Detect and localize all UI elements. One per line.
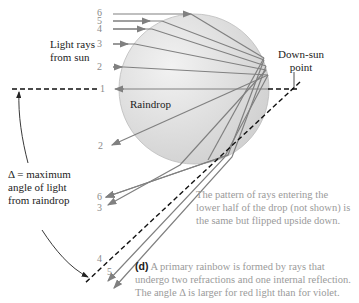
ray-num-2-in: 2 <box>97 61 102 72</box>
note-line2: lower half of the drop (not shown) is <box>196 201 350 214</box>
delta-label: Δ = maximum angle of light from raindrop <box>8 168 71 207</box>
caption-text1: A primary rainbow is formed by rays that <box>148 261 324 272</box>
delta-arc-upper <box>19 92 28 163</box>
figure-caption: (d) A primary rainbow is formed by rays … <box>135 260 351 299</box>
delta-line3: from raindrop <box>8 194 71 207</box>
light-rays-line2: from sun <box>50 51 95 64</box>
delta-arc-lower <box>42 230 88 277</box>
ray-num-3-in: 3 <box>97 38 102 49</box>
ray-num-5-out: 5 <box>107 266 112 277</box>
ray-num-3-out: 3 <box>97 202 102 213</box>
down-sun-line2: point <box>271 61 331 74</box>
caption-tag: (d) <box>135 260 148 272</box>
ray-num-4-out: 4 <box>97 253 102 264</box>
ray-num-6-out: 6 <box>97 191 102 202</box>
ray-num-1-in: 1 <box>100 83 105 94</box>
raindrop-label: Raindrop <box>130 98 171 111</box>
ray-num-4-in: 4 <box>97 23 102 34</box>
down-sun-label: Down-sun point <box>271 48 331 74</box>
delta-line2: angle of light <box>8 181 71 194</box>
note-line3: the same but flipped upside down. <box>196 214 350 227</box>
caption-line3: The angle Δ is larger for red light than… <box>135 286 351 299</box>
light-rays-line1: Light rays <box>50 38 95 51</box>
caption-line2: undergo two refractions and one internal… <box>135 273 351 286</box>
caption-line1: (d) A primary rainbow is formed by rays … <box>135 260 351 273</box>
delta-line1: Δ = maximum <box>8 168 71 181</box>
ray-num-2-out: 2 <box>98 140 103 151</box>
down-sun-line1: Down-sun <box>271 48 331 61</box>
note-line1: The pattern of rays entering the <box>196 188 350 201</box>
light-rays-label: Light rays from sun <box>50 38 95 64</box>
flipped-note: The pattern of rays entering the lower h… <box>196 188 350 227</box>
